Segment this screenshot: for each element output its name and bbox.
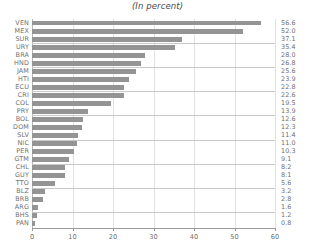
bar-blz bbox=[32, 189, 45, 194]
x-tick-0 bbox=[32, 228, 33, 231]
category-label-gtm: GTM bbox=[0, 156, 29, 163]
plot-area bbox=[32, 19, 275, 228]
value-label-pry: 13.9 bbox=[281, 108, 311, 115]
category-label-mex: MEX bbox=[0, 28, 29, 35]
bar-bra bbox=[32, 53, 145, 58]
value-label-arg: 1.6 bbox=[281, 204, 311, 211]
bar-nic bbox=[32, 141, 77, 146]
category-label-jam: JAM bbox=[0, 68, 29, 75]
value-label-ecu: 22.8 bbox=[281, 84, 311, 91]
bar-ven bbox=[32, 21, 261, 26]
bar-hnd bbox=[32, 61, 141, 66]
bar-chl bbox=[32, 165, 65, 170]
value-label-sur: 37.1 bbox=[281, 36, 311, 43]
value-label-gtm: 9.1 bbox=[281, 156, 311, 163]
x-tick-10 bbox=[73, 228, 74, 231]
value-label-bol: 12.6 bbox=[281, 116, 311, 123]
value-label-hti: 23.9 bbox=[281, 76, 311, 83]
bar-brb bbox=[32, 197, 43, 202]
x-tick-label-60: 60 bbox=[263, 233, 287, 241]
bar-bhs bbox=[32, 213, 37, 218]
value-label-col: 19.5 bbox=[281, 100, 311, 107]
x-tick-label-0: 0 bbox=[20, 233, 44, 241]
bar-hti bbox=[32, 77, 129, 82]
x-tick-40 bbox=[194, 228, 195, 231]
value-label-ven: 56.6 bbox=[281, 20, 311, 27]
category-label-ury: URY bbox=[0, 44, 29, 51]
bar-jam bbox=[32, 69, 136, 74]
category-label-sur: SUR bbox=[0, 36, 29, 43]
category-label-dom: DOM bbox=[0, 124, 29, 131]
bar-gtm bbox=[32, 157, 69, 162]
x-tick-label-20: 20 bbox=[101, 233, 125, 241]
value-label-cri: 22.6 bbox=[281, 92, 311, 99]
chart-title: (In percent) bbox=[0, 1, 315, 11]
value-label-bhs: 1.2 bbox=[281, 212, 311, 219]
x-tick-20 bbox=[113, 228, 114, 231]
value-label-blz: 3.2 bbox=[281, 188, 311, 195]
category-label-hnd: HND bbox=[0, 60, 29, 67]
x-tick-60 bbox=[275, 228, 276, 231]
category-label-bol: BOL bbox=[0, 116, 29, 123]
category-label-ven: VEN bbox=[0, 20, 29, 27]
bar-tto bbox=[32, 181, 55, 186]
bar-pan bbox=[32, 221, 35, 226]
bar-bol bbox=[32, 117, 83, 122]
bar-ecu bbox=[32, 85, 124, 90]
bar-guy bbox=[32, 173, 65, 178]
value-label-tto: 5.6 bbox=[281, 180, 311, 187]
category-label-bra: BRA bbox=[0, 52, 29, 59]
gridline-60 bbox=[275, 19, 276, 228]
value-label-dom: 12.3 bbox=[281, 124, 311, 131]
value-label-ury: 35.4 bbox=[281, 44, 311, 51]
bar-slv bbox=[32, 133, 78, 138]
bar-ury bbox=[32, 45, 175, 50]
category-label-pan: PAN bbox=[0, 220, 29, 227]
bar-col bbox=[32, 101, 111, 106]
bar-pry bbox=[32, 109, 88, 114]
category-label-arg: ARG bbox=[0, 204, 29, 211]
bar-mex bbox=[32, 29, 243, 34]
category-label-bhs: BHS bbox=[0, 212, 29, 219]
bar-dom bbox=[32, 125, 82, 130]
value-label-hnd: 26.8 bbox=[281, 60, 311, 67]
x-tick-label-10: 10 bbox=[61, 233, 85, 241]
value-label-chl: 8.2 bbox=[281, 164, 311, 171]
bars-layer bbox=[32, 19, 275, 228]
category-label-brb: BRB bbox=[0, 196, 29, 203]
value-label-jam: 25.6 bbox=[281, 68, 311, 75]
value-label-slv: 11.4 bbox=[281, 132, 311, 139]
category-label-per: PER bbox=[0, 148, 29, 155]
bar-sur bbox=[32, 37, 182, 42]
category-label-hti: HTI bbox=[0, 76, 29, 83]
x-tick-label-50: 50 bbox=[223, 233, 247, 241]
category-label-tto: TTO bbox=[0, 180, 29, 187]
category-label-cri: CRI bbox=[0, 92, 29, 99]
category-label-pry: PRY bbox=[0, 108, 29, 115]
category-label-col: COL bbox=[0, 100, 29, 107]
x-tick-label-40: 40 bbox=[182, 233, 206, 241]
x-tick-50 bbox=[235, 228, 236, 231]
bar-cri bbox=[32, 93, 124, 98]
value-label-bra: 28.0 bbox=[281, 52, 311, 59]
category-label-slv: SLV bbox=[0, 132, 29, 139]
category-label-chl: CHL bbox=[0, 164, 29, 171]
value-label-guy: 8.1 bbox=[281, 172, 311, 179]
category-label-guy: GUY bbox=[0, 172, 29, 179]
x-tick-label-30: 30 bbox=[142, 233, 166, 241]
bar-per bbox=[32, 149, 74, 154]
value-label-mex: 52.0 bbox=[281, 28, 311, 35]
value-label-per: 10.3 bbox=[281, 148, 311, 155]
category-label-blz: BLZ bbox=[0, 188, 29, 195]
category-label-nic: NIC bbox=[0, 140, 29, 147]
bar-chart: (In percent) 0102030405060 VENMEXSURURYB… bbox=[0, 0, 315, 250]
value-label-nic: 11.0 bbox=[281, 140, 311, 147]
bar-arg bbox=[32, 205, 38, 210]
x-tick-30 bbox=[154, 228, 155, 231]
category-label-ecu: ECU bbox=[0, 84, 29, 91]
value-label-brb: 2.8 bbox=[281, 196, 311, 203]
value-label-pan: 0.8 bbox=[281, 220, 311, 227]
